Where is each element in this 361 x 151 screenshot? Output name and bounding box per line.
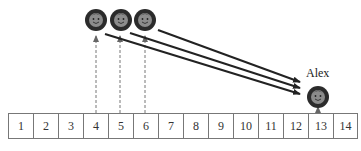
diagram: Alex 1 2 3 4 5 6 7 8 9 10 11 12 13 14 <box>0 0 361 151</box>
cell: 8 <box>183 114 208 138</box>
cell: 2 <box>33 114 58 138</box>
caption <box>60 143 280 151</box>
cell: 6 <box>133 114 158 138</box>
arrow-to-alex-2 <box>130 33 300 88</box>
cell: 1 <box>8 114 33 138</box>
person-face-icon <box>110 9 132 31</box>
cell: 12 <box>283 114 308 138</box>
cell: 11 <box>258 114 283 138</box>
cell: 7 <box>158 114 183 138</box>
person-face-icon <box>134 9 156 31</box>
cell: 4 <box>83 114 108 138</box>
solid-arrows <box>105 30 300 94</box>
cell: 14 <box>333 114 358 138</box>
arrow-to-alex-1 <box>105 34 300 94</box>
alex-label: Alex <box>306 66 329 81</box>
person-face-icon <box>85 9 107 31</box>
cell: 3 <box>58 114 83 138</box>
cell: 9 <box>208 114 233 138</box>
cell: 10 <box>233 114 258 138</box>
cell: 5 <box>108 114 133 138</box>
cell-strip: 1 2 3 4 5 6 7 8 9 10 11 12 13 14 <box>8 113 358 139</box>
cell: 13 <box>308 114 333 138</box>
alex-face-icon <box>307 86 329 108</box>
